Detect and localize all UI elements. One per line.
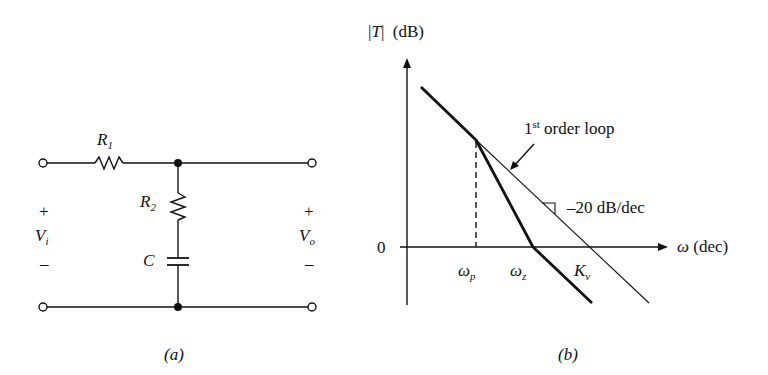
vo-plus-sign: +: [304, 203, 314, 220]
label-vi: Vi: [35, 227, 48, 247]
tick-omega-p: ωp: [458, 262, 476, 282]
label-r1: R1: [97, 131, 113, 151]
input-terminal-top: [39, 159, 47, 167]
zero-tick-label: 0: [377, 239, 386, 256]
tick-kv: Kv: [574, 262, 590, 282]
caption-b: (b): [558, 346, 578, 363]
caption-a: (a): [164, 346, 184, 363]
label-r2: R2: [140, 193, 156, 213]
resistor-r1-icon: [95, 157, 123, 169]
diagram-canvas: [0, 0, 768, 375]
resistor-r2-icon: [171, 193, 185, 220]
vi-minus-sign: –: [40, 255, 49, 272]
vi-plus-sign: +: [39, 203, 49, 220]
input-terminal-bottom: [39, 303, 47, 311]
annotation-first-order-loop: 1st order loop: [524, 119, 614, 137]
annotation-pointer: [513, 144, 534, 167]
output-terminal-bottom: [308, 303, 316, 311]
output-terminal-top: [308, 159, 316, 167]
y-axis-arrow-icon: [403, 58, 411, 68]
tick-omega-z: ωz: [510, 262, 526, 282]
y-axis-label: |T| (dB): [368, 23, 424, 40]
label-vo: Vo: [299, 227, 315, 247]
x-axis-arrow-icon: [658, 243, 668, 251]
first-order-loop-line: [476, 140, 649, 303]
x-axis-label: ω (dec): [677, 238, 728, 255]
vo-minus-sign: –: [305, 255, 314, 272]
label-c: C: [143, 252, 154, 269]
annotation-slope: –20 dB/dec: [567, 199, 645, 216]
